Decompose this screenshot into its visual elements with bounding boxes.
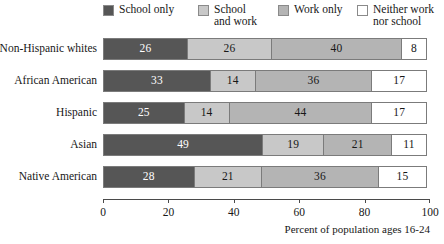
bar-segment-value: 36 [308,75,320,87]
x-axis-tick-label: 60 [293,206,305,218]
bar-segment: 14 [184,102,230,124]
legend-item-neither: Neither work nor school [357,4,434,27]
x-axis-tick-label: 40 [228,206,240,218]
legend-item-work-only: Work only [278,4,343,16]
bar-segment-value: 14 [201,107,213,119]
bar-segment-value: 8 [411,43,417,55]
legend-label-work-only: Work only [294,4,343,16]
x-axis-tick-label: 0 [100,206,106,218]
bar-segment: 28 [103,166,195,188]
x-axis-tick-label: 80 [359,206,371,218]
x-axis-tick [234,199,235,203]
bar-segment-value: 28 [143,171,155,183]
bar-row-label: Native American [19,170,97,183]
x-axis-tick [429,199,430,203]
bar-segment: 17 [371,70,427,92]
bar-segment-value: 17 [393,107,405,119]
x-axis-tick [103,199,104,203]
legend-swatch-school-and-work [198,5,209,16]
bar-row-label: Asian [70,138,97,151]
bar-segment-value: 33 [151,75,163,87]
bar-segment-value: 15 [396,171,408,183]
bar-segment-value: 21 [222,171,234,183]
bar-segment-value: 36 [314,171,326,183]
legend-item-school-only: School only [103,4,174,16]
x-axis-tick-label: 20 [163,206,175,218]
stacked-bar: 49192111 [103,134,430,156]
stacked-bar: 28213615 [103,166,430,188]
bar-segment: 21 [323,134,392,156]
x-axis: 020406080100 Percent of population ages … [103,199,430,239]
bar-segment: 44 [229,102,373,124]
bar-segment: 36 [255,70,373,92]
bar-row-label: Hispanic [56,106,97,119]
stacked-bar: 33143617 [103,70,430,92]
legend-swatch-school-only [103,5,114,16]
bar-segment: 40 [271,38,402,60]
bar-segment: 36 [261,166,379,188]
bar-segment-value: 26 [140,43,152,55]
stacked-bar: 2626408 [103,38,430,60]
bar-segment: 8 [401,38,427,60]
bar-segment: 26 [103,38,188,60]
x-axis-tick-label: 100 [421,206,438,218]
bar-row: Asian49192111 [0,134,444,156]
bar-segment-value: 19 [287,139,299,151]
bar-segment: 26 [187,38,272,60]
bar-row: Non-Hispanic whites2626408 [0,38,444,60]
x-axis-tick [168,199,169,203]
bar-segment-value: 40 [330,43,342,55]
bar-segment: 25 [103,102,185,124]
bar-segment: 49 [103,134,263,156]
legend-label-school-and-work: School and work [214,4,257,27]
bar-segment-value: 49 [177,139,189,151]
bar-segment: 14 [210,70,256,92]
x-axis-tick [299,199,300,203]
bar-segment: 17 [371,102,427,124]
bar-segment: 33 [103,70,211,92]
chart-legend: School only School and work Work only Ne… [0,0,444,34]
stacked-bar: 25144417 [103,102,430,124]
bar-segment-value: 26 [224,43,236,55]
stacked-bar-chart: Non-Hispanic whites2626408African Americ… [0,34,444,244]
x-axis-tick [365,199,366,203]
bar-row: Hispanic25144417 [0,102,444,124]
legend-item-school-and-work: School and work [198,4,257,27]
bar-segment: 11 [391,134,427,156]
x-axis-caption: Percent of population ages 16-24 [285,223,430,235]
bar-row-label: African American [14,74,97,87]
bar-segment: 19 [262,134,324,156]
bar-segment-value: 11 [403,139,414,151]
bar-segment-value: 21 [352,139,364,151]
bar-segment-value: 14 [227,75,239,87]
bar-segment: 21 [194,166,263,188]
bar-segment-value: 44 [295,107,307,119]
bar-row-label: Non-Hispanic whites [0,42,97,55]
bar-segment: 15 [378,166,427,188]
bar-row: Native American28213615 [0,166,444,188]
bar-segment-value: 17 [393,75,405,87]
legend-swatch-neither [357,5,368,16]
x-axis-line [103,199,430,200]
bar-row: African American33143617 [0,70,444,92]
legend-swatch-work-only [278,5,289,16]
legend-label-school-only: School only [119,4,174,16]
legend-label-neither: Neither work nor school [373,4,434,27]
bar-segment-value: 25 [138,107,150,119]
